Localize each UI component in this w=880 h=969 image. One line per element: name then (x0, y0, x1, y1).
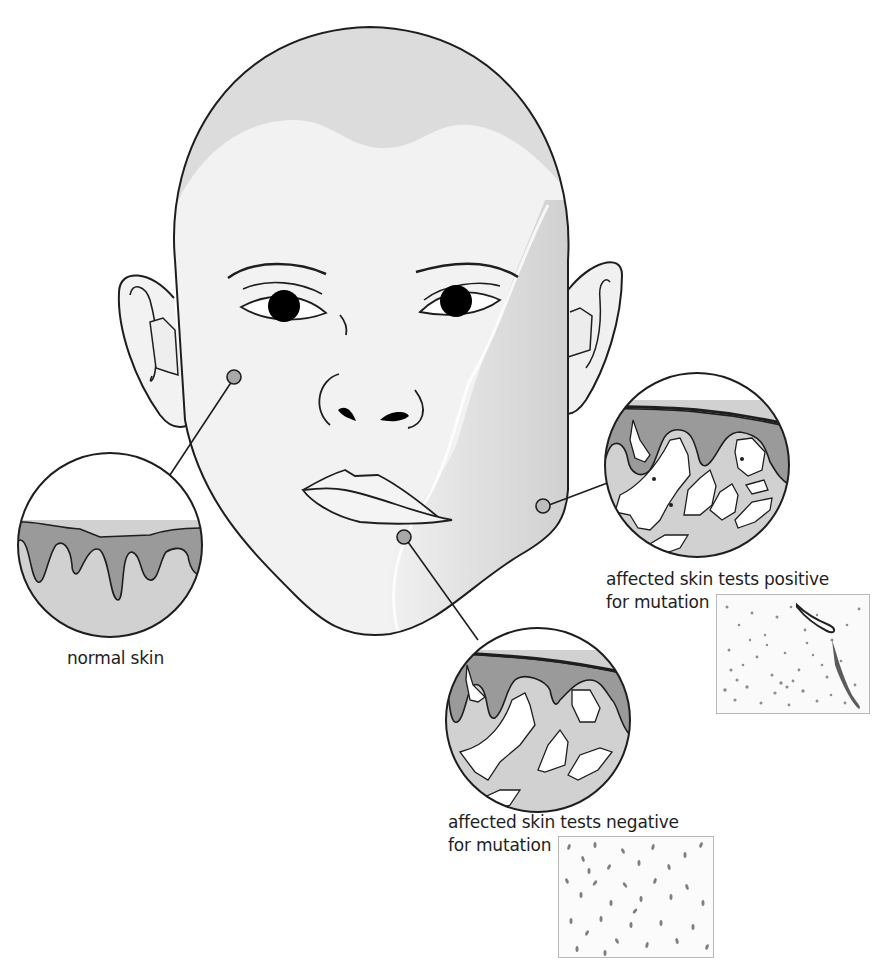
right-iris-icon (440, 285, 472, 317)
positive-label-line2: for mutation (606, 592, 709, 613)
right-ear (567, 262, 622, 414)
negative-label-line2: for mutation (448, 835, 551, 856)
left-iris-icon (268, 290, 300, 322)
normal-skin-magnifier (10, 453, 210, 650)
face-illustration (0, 0, 880, 969)
positive-skin-magnifier (600, 373, 800, 570)
negative-label-line1: affected skin tests negative (448, 812, 679, 833)
normal-skin-label: normal skin (67, 648, 164, 669)
negative-skin-magnifier (440, 628, 640, 820)
negative-histology-image (558, 836, 714, 958)
left-ear (119, 275, 186, 427)
positive-label-line1: affected skin tests positive (606, 569, 829, 590)
positive-histology-image (716, 594, 870, 714)
face (160, 20, 600, 650)
